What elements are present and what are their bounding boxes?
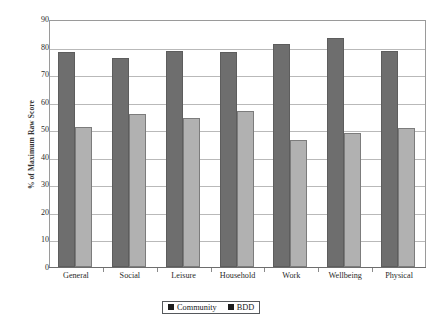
- bar: [398, 128, 415, 267]
- bar-group: [265, 21, 319, 267]
- bar: [290, 140, 307, 267]
- bar: [273, 44, 290, 267]
- bar: [237, 111, 254, 267]
- legend-label: BDD: [237, 303, 255, 312]
- bar: [75, 127, 92, 268]
- bar: [183, 118, 200, 267]
- y-tick-label: 20: [15, 209, 49, 217]
- y-tick-label: 90: [15, 16, 49, 24]
- caption-fragment: [0, 0, 443, 10]
- legend-swatch-icon: [228, 304, 234, 310]
- bar: [381, 51, 398, 267]
- bar-group: [158, 21, 212, 267]
- bar: [112, 58, 129, 267]
- y-tick-label: 30: [15, 181, 49, 189]
- bar-group: [104, 21, 158, 267]
- bar-group: [50, 21, 104, 267]
- bar: [166, 51, 183, 267]
- x-tick-label: Social: [103, 270, 157, 282]
- y-tick-label: 0: [15, 264, 49, 272]
- x-tick-label: Household: [211, 270, 265, 282]
- y-tick-label: 40: [15, 154, 49, 162]
- x-tick-label: Leisure: [157, 270, 211, 282]
- x-axis-labels: GeneralSocialLeisureHouseholdWorkWellbei…: [49, 270, 426, 284]
- x-tick-label: General: [49, 270, 103, 282]
- bar: [58, 52, 75, 267]
- legend-swatch-icon: [168, 304, 174, 310]
- x-tick-label: Physical: [372, 270, 426, 282]
- plot-area: [49, 20, 426, 268]
- bar-group: [319, 21, 373, 267]
- bar-group: [373, 21, 426, 267]
- legend-entry[interactable]: Community: [168, 303, 217, 312]
- bar-group: [212, 21, 266, 267]
- bar-chart-figure: % of Maximum Raw Score 01020304050607080…: [0, 0, 443, 322]
- legend-label: Community: [177, 303, 217, 312]
- bar: [344, 133, 361, 267]
- legend-entry[interactable]: BDD: [228, 303, 255, 312]
- y-tick-label: 60: [15, 99, 49, 107]
- x-tick-label: Work: [264, 270, 318, 282]
- y-tick-label: 70: [15, 71, 49, 79]
- bar: [220, 52, 237, 267]
- y-axis-ticks: 0102030405060708090: [8, 20, 49, 268]
- chart-legend: CommunityBDD: [162, 301, 260, 314]
- y-tick-label: 10: [15, 236, 49, 244]
- y-tick-label: 50: [15, 126, 49, 134]
- y-tick-label: 80: [15, 44, 49, 52]
- x-tick-label: Wellbeing: [318, 270, 372, 282]
- bar: [129, 114, 146, 267]
- bar: [327, 38, 344, 267]
